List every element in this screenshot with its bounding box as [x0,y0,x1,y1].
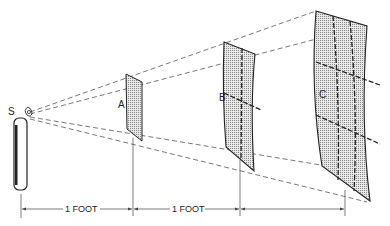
dimension-label-1: 1 FOOT [65,204,98,214]
surface-a-label: A [118,99,125,110]
surface-a: A [118,74,142,141]
inverse-square-diagram: S A B C 1 FOOT [0,0,390,226]
surface-b-label: B [219,92,226,103]
source-label: S [8,106,15,117]
surface-c: C [314,11,380,201]
surface-b: B [219,42,261,171]
surface-c-label: C [319,89,326,100]
light-source: S [8,106,32,190]
dimension-label-2: 1 FOOT [172,204,205,214]
